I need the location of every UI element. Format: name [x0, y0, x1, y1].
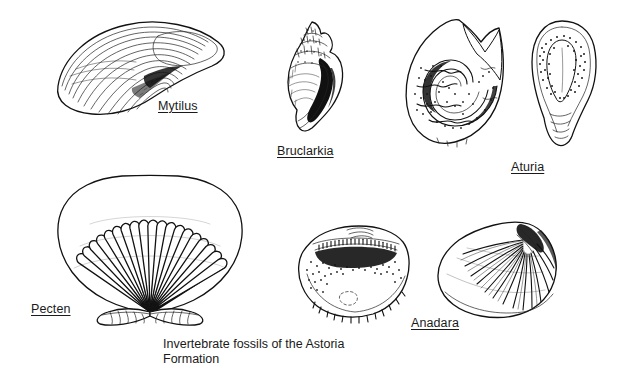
plate-caption: Invertebrate fossils of the Astoria Form… [163, 337, 344, 366]
specimen-figure-pecten [50, 172, 250, 327]
specimen-label-aturia: Aturia [511, 160, 544, 174]
specimen-label-pecten: Pecten [31, 302, 71, 316]
specimen-label-mytilus: Mytilus [158, 99, 198, 113]
specimen-figure-aturia-lateral [403, 16, 515, 151]
specimen-label-bruclarkia: Bruclarkia [277, 144, 334, 158]
fossil-plate: Mytilus [0, 0, 619, 366]
specimen-figure-bruclarkia [268, 18, 360, 140]
specimen-figure-aturia-ventral [524, 18, 602, 153]
specimen-figure-anadara-interior [293, 218, 415, 326]
specimen-figure-mytilus [52, 14, 232, 124]
specimen-figure-anadara-exterior [433, 216, 563, 326]
